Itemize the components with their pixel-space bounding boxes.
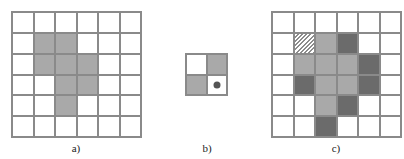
light-cell	[34, 54, 56, 75]
hatched-cell	[294, 33, 316, 54]
grid-cell	[77, 116, 99, 137]
light-cell	[294, 54, 316, 75]
light-cell	[55, 75, 77, 96]
dark-cell	[358, 54, 380, 75]
grid-cell	[77, 95, 99, 116]
grid-cell	[12, 95, 34, 116]
grid-cell	[294, 95, 316, 116]
grid-cell	[98, 116, 120, 137]
dark-cell	[337, 95, 359, 116]
grid-cell	[272, 12, 294, 33]
label-a: a)	[56, 142, 96, 154]
grid-cell	[120, 33, 142, 54]
grid-cell	[98, 12, 120, 33]
grid-cell	[77, 12, 99, 33]
grid-cell	[337, 116, 359, 137]
grid-cell	[315, 12, 337, 33]
grid-cell	[358, 12, 380, 33]
dark-cell	[358, 75, 380, 96]
light-cell	[77, 54, 99, 75]
grid-cell	[272, 54, 294, 75]
light-cell	[186, 75, 207, 96]
light-cell	[34, 33, 56, 54]
light-cell	[315, 54, 337, 75]
grid-cell	[98, 95, 120, 116]
grid-cell	[98, 75, 120, 96]
grid-cell	[12, 12, 34, 33]
light-cell	[55, 95, 77, 116]
dot-cell	[207, 75, 228, 96]
grid-cell	[120, 12, 142, 33]
grid-cell	[380, 95, 402, 116]
grid-cell	[294, 12, 316, 33]
light-cell	[315, 95, 337, 116]
grid-cell	[272, 95, 294, 116]
light-cell	[315, 33, 337, 54]
grid-cell	[34, 95, 56, 116]
grid-a	[11, 11, 142, 138]
grid-cell	[98, 33, 120, 54]
grid-cell	[272, 75, 294, 96]
grid-cell	[380, 54, 402, 75]
grid-cell	[55, 12, 77, 33]
grid-cell	[34, 12, 56, 33]
grid-cell	[120, 54, 142, 75]
grid-cell	[120, 75, 142, 96]
dark-cell	[315, 116, 337, 137]
grid-c	[271, 11, 402, 138]
grid-cell	[34, 75, 56, 96]
grid-cell	[12, 54, 34, 75]
grid-cell	[380, 33, 402, 54]
grid-cell	[380, 12, 402, 33]
grid-b	[185, 53, 228, 96]
light-cell	[55, 54, 77, 75]
grid-cell	[120, 95, 142, 116]
grid-cell	[120, 116, 142, 137]
light-cell	[77, 75, 99, 96]
grid-cell	[294, 116, 316, 137]
label-b: b)	[187, 142, 227, 154]
grid-cell	[34, 116, 56, 137]
light-cell	[55, 33, 77, 54]
light-cell	[337, 75, 359, 96]
grid-cell	[186, 54, 207, 75]
grid-cell	[98, 54, 120, 75]
label-c: c)	[316, 142, 356, 154]
grid-cell	[12, 75, 34, 96]
dark-cell	[294, 75, 316, 96]
grid-cell	[380, 116, 402, 137]
grid-cell	[12, 33, 34, 54]
grid-cell	[272, 116, 294, 137]
grid-cell	[77, 33, 99, 54]
grid-cell	[337, 12, 359, 33]
grid-cell	[12, 116, 34, 137]
light-cell	[337, 54, 359, 75]
dark-cell	[337, 33, 359, 54]
grid-cell	[358, 33, 380, 54]
light-cell	[207, 54, 228, 75]
grid-cell	[272, 33, 294, 54]
dot-icon	[213, 81, 220, 88]
light-cell	[315, 75, 337, 96]
grid-cell	[55, 116, 77, 137]
grid-cell	[358, 95, 380, 116]
grid-cell	[380, 75, 402, 96]
grid-cell	[358, 116, 380, 137]
